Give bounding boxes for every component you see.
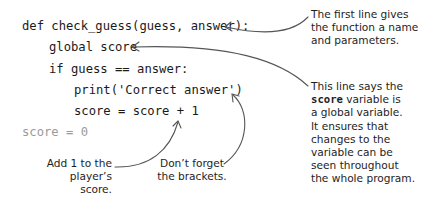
arrow-icon	[226, 17, 308, 32]
arrow-icon	[133, 47, 308, 86]
annotation-arrows	[0, 0, 427, 203]
arrowhead-icon	[225, 22, 232, 31]
arrow-icon	[224, 95, 245, 164]
arrow-icon	[115, 122, 178, 167]
